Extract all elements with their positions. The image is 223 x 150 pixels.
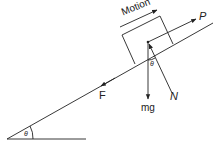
base-angle-label: θ <box>24 130 28 137</box>
normal-force-label: N <box>170 91 178 102</box>
normal-force-arrow <box>149 44 172 93</box>
base-angle-arc <box>30 126 33 139</box>
friction-arrow <box>101 78 115 86</box>
push-force-label: P <box>199 11 206 22</box>
center-of-mass <box>147 41 150 44</box>
block-angle-label: θ <box>150 60 154 67</box>
block <box>122 16 173 64</box>
incline-diagram: Motion P F mg N θ θ <box>0 0 223 150</box>
friction-label: F <box>99 90 106 101</box>
diagram-drawing <box>0 0 223 150</box>
push-force-arrow <box>148 19 196 42</box>
weight-label: mg <box>141 103 155 113</box>
